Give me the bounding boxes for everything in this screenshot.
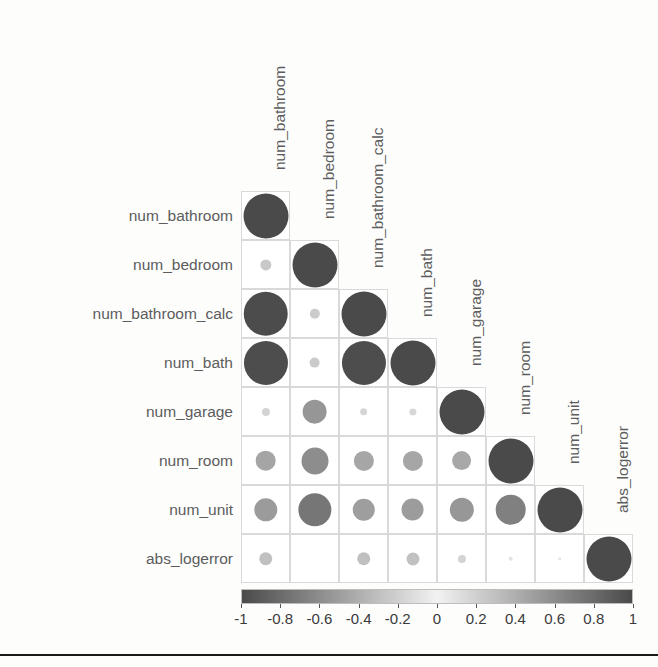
corr-cell [241, 191, 290, 240]
corr-cell [486, 534, 535, 583]
corr-cell [241, 534, 290, 583]
colorbar-tick [319, 604, 320, 608]
colorbar-tick-label: -0.2 [385, 611, 411, 626]
corr-cell [339, 338, 388, 387]
corr-circle [439, 389, 484, 434]
corr-circle [292, 242, 337, 287]
corr-circle [309, 308, 319, 318]
colorbar: -1-0.8-0.6-0.4-0.200.20.40.60.81 [241, 589, 633, 633]
colorbar-tick [280, 604, 281, 608]
colorbar-tick [476, 604, 477, 608]
corr-cell [339, 387, 388, 436]
corr-cell [437, 485, 486, 534]
corr-circle [243, 291, 288, 336]
corr-circle [401, 498, 424, 521]
corr-cell [241, 240, 290, 289]
corr-cell [584, 534, 633, 583]
corr-cell [388, 485, 437, 534]
corr-cell [388, 534, 437, 583]
corr-circle [314, 558, 315, 559]
colorbar-gradient [241, 589, 633, 604]
corr-cell [437, 387, 486, 436]
corr-circle [302, 399, 327, 424]
colorbar-tick-label: 0 [433, 611, 441, 626]
corr-circle [301, 447, 328, 474]
corr-circle [390, 340, 435, 385]
corr-cell [241, 485, 290, 534]
colorbar-tick-label: 0.2 [466, 611, 487, 626]
corr-cell [290, 534, 339, 583]
bottom-divider [0, 654, 658, 656]
corr-circle [352, 498, 375, 521]
corr-cell [339, 436, 388, 485]
corr-cell [339, 289, 388, 338]
row-label-num-garage: num_garage [3, 404, 233, 420]
corr-circle [254, 498, 277, 521]
colorbar-tick-label: -0.8 [267, 611, 293, 626]
row-label-num-room: num_room [3, 453, 233, 469]
corr-cell [388, 436, 437, 485]
corr-circle [243, 340, 287, 384]
column-label-num-bathroom-calc: num_bathroom_calc [370, 127, 386, 267]
corr-cell [535, 485, 584, 534]
colorbar-tick [437, 604, 438, 608]
corr-circle [353, 450, 373, 470]
column-label-num-bath: num_bath [419, 248, 435, 317]
corr-circle [341, 291, 386, 336]
row-label-num-bath: num_bath [3, 355, 233, 371]
corr-cell [241, 387, 290, 436]
correlation-matrix-grid [241, 191, 633, 583]
corr-circle [452, 451, 472, 471]
colorbar-tick-label: -1 [234, 611, 247, 626]
colorbar-tick [633, 604, 634, 608]
colorbar-tick [594, 604, 595, 608]
corr-cell [437, 534, 486, 583]
colorbar-tick-label: -0.4 [346, 611, 372, 626]
row-label-num-bathroom-calc: num_bathroom_calc [3, 306, 233, 322]
corr-circle [341, 340, 385, 384]
column-label-num-bedroom: num_bedroom [321, 119, 337, 219]
corr-cell [241, 289, 290, 338]
corr-circle [259, 552, 273, 566]
corr-cell [486, 485, 535, 534]
corr-circle [309, 357, 320, 368]
corr-circle [558, 557, 562, 561]
corr-cell [290, 240, 339, 289]
corr-circle [586, 536, 631, 581]
column-label-num-garage: num_garage [468, 278, 484, 365]
colorbar-tick [555, 604, 556, 608]
corr-cell [388, 338, 437, 387]
corr-circle [495, 494, 526, 525]
corr-circle [261, 407, 269, 415]
corr-cell [388, 387, 437, 436]
corr-circle [255, 450, 276, 471]
colorbar-tick [398, 604, 399, 608]
corr-cell [290, 485, 339, 534]
corr-cell [290, 338, 339, 387]
colorbar-tick [241, 604, 242, 608]
corr-circle [457, 554, 465, 562]
corr-cell [437, 436, 486, 485]
colorbar-tick-label: 0.8 [583, 611, 604, 626]
corr-circle [409, 408, 416, 415]
corr-cell [339, 534, 388, 583]
corr-circle [508, 556, 513, 561]
corr-circle [360, 408, 368, 416]
corr-circle [488, 438, 533, 483]
colorbar-tick [515, 604, 516, 608]
colorbar-tick-label: 0.4 [505, 611, 526, 626]
column-label-num-room: num_room [517, 340, 533, 414]
colorbar-tick-label: 0.6 [544, 611, 565, 626]
row-label-abs-logerror: abs_logerror [3, 551, 233, 567]
corr-cell [486, 436, 535, 485]
corr-cell [290, 387, 339, 436]
row-label-num-unit: num_unit [3, 502, 233, 518]
corr-circle [537, 487, 582, 532]
colorbar-tick-label: 1 [629, 611, 637, 626]
corr-circle [406, 552, 419, 565]
corr-cell [290, 289, 339, 338]
colorbar-tick-label: -0.6 [306, 611, 332, 626]
column-label-num-bathroom: num_bathroom [272, 65, 288, 169]
corr-cell [241, 338, 290, 387]
correlation-matrix-figure: num_bathroomnum_bedroomnum_bathroom_calc… [0, 0, 658, 667]
